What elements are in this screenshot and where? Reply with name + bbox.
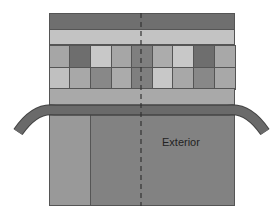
overlay-lines <box>0 0 280 209</box>
exterior-label: Exterior <box>162 136 200 148</box>
